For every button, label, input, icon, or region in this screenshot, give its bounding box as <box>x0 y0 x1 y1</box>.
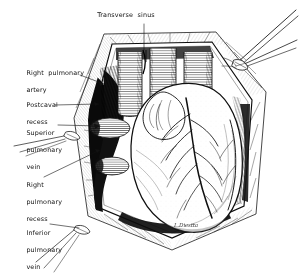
label-superior-pulmonary-vein: Superior pulmonary vein <box>22 120 62 172</box>
label-line: vein <box>26 263 40 271</box>
label-line: pulmonary <box>26 198 62 206</box>
label-right-pulmonary-artery: Right pulmonary artery <box>22 60 84 94</box>
label-line: pulmonary <box>26 146 62 154</box>
label-line: Superior <box>26 129 54 137</box>
label-transverse-sinus: Transverse sinus <box>84 11 168 20</box>
label-line: Postcaval <box>26 101 58 109</box>
label-inferior-pulmonary-vein: Inferior pulmonary vein <box>22 220 62 272</box>
artist-signature: L.Diestta <box>174 222 198 228</box>
label-line: vein <box>26 163 40 171</box>
label-line: Right <box>26 181 44 189</box>
label-right-pulmonary-recess: Right pulmonary recess <box>22 172 62 224</box>
label-line: pulmonary <box>26 246 62 254</box>
label-line: Inferior <box>26 229 50 237</box>
label-line: Right pulmonary <box>26 69 84 77</box>
